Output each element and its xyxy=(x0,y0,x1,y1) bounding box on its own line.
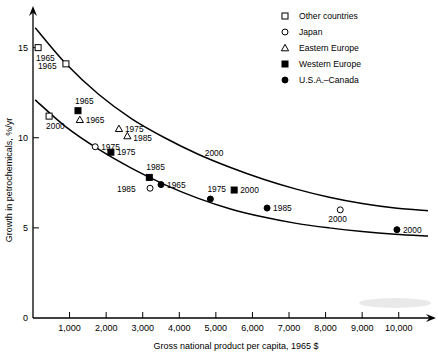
marker-open-triangle xyxy=(115,125,122,131)
curve-annotation: 2000 xyxy=(205,148,224,158)
legend-label: Eastern Europe xyxy=(299,43,359,53)
data-point-label: 1985 xyxy=(146,162,165,172)
marker-solid-circle xyxy=(158,182,164,188)
y-axis-title: Growth in petrochemicals, %/yr xyxy=(4,118,14,243)
axes: 0510151,0002,0003,0004,0005,0006,0007,00… xyxy=(18,6,436,333)
data-point xyxy=(147,185,153,191)
data-point-label: 1985 xyxy=(117,184,136,194)
legend-item-u-s-a-canada[interactable]: U.S.A.–Canada xyxy=(282,75,359,85)
envelope-curves xyxy=(35,28,428,236)
data-point-label: 1965 xyxy=(167,180,186,190)
marker-open-square xyxy=(35,45,41,51)
legend-label: Japan xyxy=(299,27,323,37)
scan-smudge xyxy=(359,298,431,308)
data-point xyxy=(158,182,164,188)
marker-solid-circle xyxy=(207,196,213,202)
marker-open-square xyxy=(63,61,69,67)
marker-solid-circle xyxy=(264,205,270,211)
x-tick-label: 4,000 xyxy=(168,323,191,333)
legend-label: Other countries xyxy=(299,11,358,21)
data-point-label: 1985 xyxy=(273,203,292,213)
legend-label: U.S.A.–Canada xyxy=(299,75,359,85)
marker-solid-square xyxy=(282,61,288,67)
data-point-label: 1975 xyxy=(117,147,136,157)
x-tick-label: 2,000 xyxy=(95,323,118,333)
chart-annotations: 2000 xyxy=(205,148,224,158)
marker-open-circle xyxy=(337,207,343,213)
y-tick-label: 15 xyxy=(18,43,28,53)
marker-solid-square xyxy=(108,149,114,155)
data-point xyxy=(92,144,98,150)
marker-solid-circle xyxy=(282,77,288,83)
data-point-label: 2000 xyxy=(46,121,65,131)
data-points: 1965196520001975198520001965197519851965… xyxy=(35,45,422,235)
data-point xyxy=(115,125,122,131)
y-tick-label: 0 xyxy=(23,313,28,323)
data-point-label: 1965 xyxy=(75,96,94,106)
x-tick-label: 10,000 xyxy=(385,323,413,333)
data-point xyxy=(76,116,83,122)
data-point xyxy=(264,205,270,211)
data-point-label: 1985 xyxy=(133,133,152,143)
y-tick-label: 10 xyxy=(18,133,28,143)
x-axis-title: Gross national product per capita, 1965 … xyxy=(153,341,318,351)
legend-label: Western Europe xyxy=(299,59,361,69)
legend-marker xyxy=(281,44,288,50)
marker-open-circle xyxy=(92,144,98,150)
marker-solid-square xyxy=(231,187,237,193)
x-tick-label: 1,000 xyxy=(58,323,81,333)
data-point-label: 2000 xyxy=(403,225,422,235)
legend-item-other-countries[interactable]: Other countries xyxy=(282,11,358,21)
x-tick-label: 6,000 xyxy=(241,323,264,333)
petrochemical-growth-scatter-chart: 0510151,0002,0003,0004,0005,0006,0007,00… xyxy=(0,0,438,355)
data-point xyxy=(46,113,52,119)
chart-legend: Other countriesJapanEastern EuropeWester… xyxy=(281,11,361,85)
marker-solid-square xyxy=(146,174,152,180)
data-point xyxy=(146,174,152,180)
y-tick-label: 5 xyxy=(23,223,28,233)
x-tick-label: 9,000 xyxy=(351,323,374,333)
data-point xyxy=(108,149,114,155)
data-point xyxy=(35,45,41,51)
marker-solid-circle xyxy=(394,227,400,233)
data-point-label: 1965 xyxy=(86,115,105,125)
x-tick-label: 3,000 xyxy=(131,323,154,333)
x-tick-label: 8,000 xyxy=(314,323,337,333)
marker-open-triangle xyxy=(76,116,83,122)
data-point xyxy=(63,61,69,67)
marker-solid-square xyxy=(75,108,81,114)
data-point xyxy=(207,196,213,202)
data-point-label: 2000 xyxy=(240,185,259,195)
marker-open-circle xyxy=(282,29,288,35)
legend-marker xyxy=(282,61,288,67)
x-tick-label: 5,000 xyxy=(205,323,228,333)
data-point-label: 2000 xyxy=(328,214,347,224)
marker-open-triangle xyxy=(281,44,288,50)
series-eastern-europe: 196519751985 xyxy=(76,115,152,143)
x-tick-label: 7,000 xyxy=(278,323,301,333)
legend-item-western-europe[interactable]: Western Europe xyxy=(282,59,361,69)
marker-open-square xyxy=(46,113,52,119)
legend-item-japan[interactable]: Japan xyxy=(282,27,323,37)
data-point xyxy=(231,187,237,193)
data-point xyxy=(394,227,400,233)
marker-open-square xyxy=(282,13,288,19)
chart-figure: 0510151,0002,0003,0004,0005,0006,0007,00… xyxy=(0,0,438,355)
data-point xyxy=(75,108,81,114)
legend-marker xyxy=(282,29,288,35)
data-point xyxy=(337,207,343,213)
legend-item-eastern-europe[interactable]: Eastern Europe xyxy=(281,43,359,53)
marker-open-circle xyxy=(147,185,153,191)
legend-marker xyxy=(282,13,288,19)
data-point-label: 1975 xyxy=(207,184,226,194)
legend-marker xyxy=(282,77,288,83)
series-other-countries: 196519652000 xyxy=(35,45,69,131)
data-point-label: 1965 xyxy=(38,61,57,71)
